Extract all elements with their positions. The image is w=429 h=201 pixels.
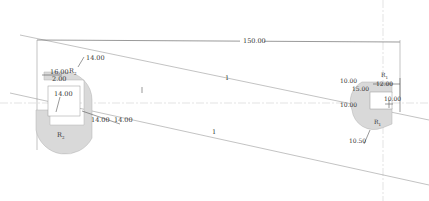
right-left-top-dim: 10.00 <box>340 77 357 84</box>
left-bottom-dim-b: 14.00 <box>114 116 133 124</box>
right-top-width-dim: 12.00 <box>376 80 393 87</box>
upper-line-label: 1 <box>225 74 229 82</box>
right-bottom-leader-dim: 10.50 <box>349 137 366 144</box>
left-bottom-dim-a: 14.00 <box>91 116 110 124</box>
left-inner-offset-dim: 2.00 <box>52 75 66 83</box>
right-height-dim: 10.00 <box>384 95 401 102</box>
leader-line <box>78 57 84 67</box>
left-top-leader-dim: 14.00 <box>86 54 105 62</box>
left-height-dim: 14.00 <box>54 90 73 98</box>
right-radius-top: R1 <box>381 71 388 80</box>
left-radius-top: R2 <box>69 67 77 76</box>
cad-drawing-canvas[interactable]: 150.00 1 1 14.00 16.00 R2 2.00 14.00 14.… <box>0 0 429 201</box>
right-left-center-dim: 10.00 <box>340 101 357 108</box>
lower-line-label: 1 <box>212 128 216 136</box>
right-left-mid-dim: 15.00 <box>352 85 369 92</box>
overall-dimension-label: 150.00 <box>243 37 266 45</box>
overall-dimension-line <box>37 40 400 42</box>
